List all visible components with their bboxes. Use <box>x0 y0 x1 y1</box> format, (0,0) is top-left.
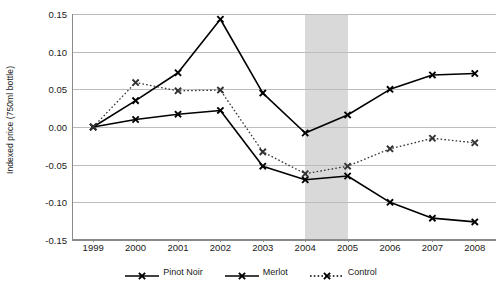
x-axis-tick-label: 2003 <box>252 242 273 253</box>
series-layer <box>72 14 496 240</box>
legend-swatch-icon <box>125 267 159 277</box>
x-axis-tick-label: 2007 <box>422 242 443 253</box>
data-point-pinot-noir <box>345 112 351 118</box>
legend-swatch-icon <box>310 267 344 277</box>
x-axis-tickmark <box>348 239 349 242</box>
x-axis-tick-label: 2001 <box>167 242 188 253</box>
x-axis-tick-label: 2000 <box>125 242 146 253</box>
x-axis-tickmark <box>263 239 264 242</box>
data-point-control <box>133 79 139 85</box>
x-axis-tick-label: 2006 <box>379 242 400 253</box>
x-axis-tick-label: 1999 <box>83 242 104 253</box>
chart-legend: Pinot NoirMerlotControl <box>0 262 502 282</box>
x-axis-tickmark <box>220 239 221 242</box>
legend-item-pinot-noir[interactable]: Pinot Noir <box>125 267 203 277</box>
x-axis-tickmark <box>475 239 476 242</box>
data-point-control <box>260 149 266 155</box>
series-line-merlot <box>93 110 475 221</box>
legend-label: Merlot <box>263 267 288 277</box>
x-axis-tick-label: 2004 <box>295 242 316 253</box>
y-axis-tick-label: -0.05 <box>18 159 72 170</box>
x-axis-tick-label: 2008 <box>464 242 485 253</box>
data-point-pinot-noir <box>175 70 181 76</box>
data-point-control <box>302 171 308 177</box>
x-axis-tickmark <box>390 239 391 242</box>
data-point-pinot-noir <box>260 90 266 96</box>
data-point-control <box>387 146 393 152</box>
data-point-control <box>345 163 351 169</box>
y-axis-title-text: Indexed price (750ml bottle) <box>5 66 15 174</box>
x-axis-tickmark <box>136 239 137 242</box>
x-axis-tickmark <box>93 239 94 242</box>
y-axis-tick-label: 0.00 <box>18 122 72 133</box>
legend-swatch-icon <box>225 267 259 277</box>
data-point-pinot-noir <box>217 16 223 22</box>
data-point-pinot-noir <box>133 98 139 104</box>
series-line-control <box>93 83 475 174</box>
line-chart: Indexed price (750ml bottle) 0.150.100.0… <box>0 0 502 282</box>
data-point-control <box>472 140 478 146</box>
y-axis-tick-label: -0.10 <box>18 197 72 208</box>
x-axis-tickmark <box>178 239 179 242</box>
data-point-pinot-noir <box>302 130 308 136</box>
series-line-pinot-noir <box>93 19 475 133</box>
legend-item-merlot[interactable]: Merlot <box>225 267 288 277</box>
x-axis-tick-label: 2002 <box>210 242 231 253</box>
legend-item-control[interactable]: Control <box>310 267 377 277</box>
y-axis-tick-label: 0.15 <box>18 9 72 20</box>
x-axis-tickmark <box>432 239 433 242</box>
legend-label: Control <box>348 267 377 277</box>
y-axis-tick-labels: 0.150.100.050.00-0.05-0.10-0.15 <box>18 0 72 282</box>
y-axis-tick-label: -0.15 <box>18 235 72 246</box>
x-axis-tick-label: 2005 <box>337 242 358 253</box>
y-axis-title: Indexed price (750ml bottle) <box>0 0 20 240</box>
legend-label: Pinot Noir <box>163 267 203 277</box>
y-axis-tick-label: 0.10 <box>18 46 72 57</box>
y-axis-tick-label: 0.05 <box>18 84 72 95</box>
x-axis-tick-labels: 1999200020012002200320042005200620072008 <box>72 242 496 260</box>
plot-area <box>72 14 496 240</box>
x-axis-tickmark <box>305 239 306 242</box>
